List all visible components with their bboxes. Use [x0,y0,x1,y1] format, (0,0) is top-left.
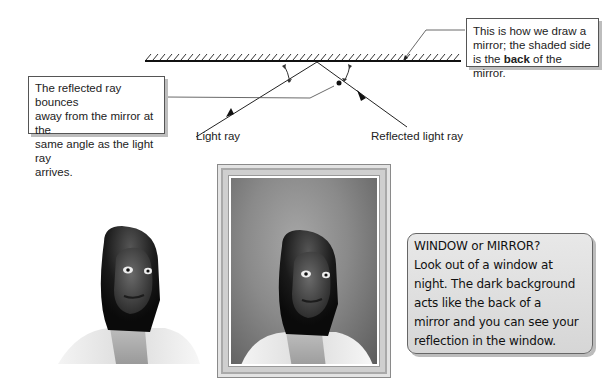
left-callout-line: away from the mirror at the [35,109,158,137]
left-callout-line: arrives. [35,165,158,179]
tip-line: mirror and you can see your [414,313,592,332]
right-callout-line: This is how we draw a [473,24,592,38]
reflected-arrowhead [357,90,366,101]
incident-ray [196,62,317,137]
reflected-ray-label: Reflected light ray [371,130,463,142]
right-callout-prefix: is the [473,53,504,65]
mirror-glass [229,176,379,366]
window-or-mirror-tip: WINDOW or MIRROR? Look out of a window a… [407,233,593,354]
left-callout: The reflected ray bounces away from the … [28,76,165,134]
mirror-hatching [146,54,459,60]
right-leader-line [405,30,465,58]
tip-line: acts like the back of a [414,294,592,313]
tip-title: WINDOW or MIRROR? [414,237,592,256]
tip-line: reflection in the window. [414,332,592,351]
tip-line: Look out of a window at [414,256,592,275]
tip-line: night. The dark background [414,275,592,294]
left-callout-line: The reflected ray bounces [35,81,158,109]
right-callout-bold-word: back [504,53,530,65]
left-leader-line [165,86,334,98]
left-callout-line: same angle as the light ray [35,137,158,165]
mirror-frame [217,164,391,378]
angle-marker-dot [337,81,342,86]
woman-portrait [58,226,200,364]
incident-ray-label: Light ray [196,130,240,142]
right-callout: This is how we draw a mirror; the shaded… [466,18,599,67]
reflected-figure [231,178,379,366]
right-callout-line: mirror; the shaded side [473,38,592,52]
right-callout-line: is the back of the mirror. [473,52,592,80]
